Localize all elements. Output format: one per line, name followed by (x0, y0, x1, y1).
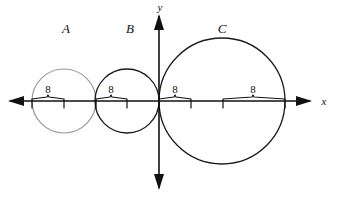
measure-label-4: 8 (250, 83, 256, 95)
y-axis-arrow-up (154, 14, 164, 30)
figure-canvas: A B C 8 8 8 8 y x (0, 0, 337, 208)
circles-figure: A B C 8 8 8 8 y x (0, 0, 337, 208)
circle-label-a: A (61, 21, 70, 36)
y-axis-arrow-down (154, 174, 164, 190)
measure-label-1: 8 (45, 83, 51, 95)
measure-label-2: 8 (108, 83, 114, 95)
circle-label-c: C (218, 21, 227, 36)
y-axis-label: y (157, 1, 163, 13)
measure-label-3: 8 (172, 83, 178, 95)
x-axis-arrow-right (296, 96, 312, 106)
circle-label-b: B (126, 21, 134, 36)
x-axis-label: x (321, 95, 327, 107)
x-axis-arrow-left (8, 96, 24, 106)
